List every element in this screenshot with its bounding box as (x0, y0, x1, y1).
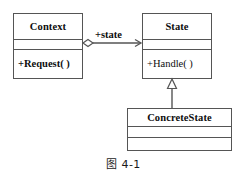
class-attributes-compartment-concretestate (128, 126, 231, 137)
class-name-compartment: State (143, 14, 211, 39)
class-box-concretestate[interactable]: ConcreteState (127, 108, 232, 151)
figure-caption: 图 4-1 (0, 155, 247, 171)
class-attributes-compartment-state (143, 39, 211, 49)
uml-class-diagram: Context +Request( ) State +Handle( ) Con… (0, 0, 247, 176)
class-title-context: Context (30, 21, 66, 32)
class-operations-compartment-concretestate (128, 137, 231, 149)
class-title-concretestate: ConcreteState (147, 112, 212, 123)
aggregation-context-state (83, 40, 141, 47)
class-name-compartment: ConcreteState (128, 109, 231, 126)
class-box-context[interactable]: Context +Request( ) (13, 13, 83, 79)
class-operation-state-handle: +Handle( ) (143, 49, 211, 77)
hollow-diamond-icon (83, 40, 93, 47)
class-attributes-compartment-context (14, 39, 82, 49)
class-box-state[interactable]: State +Handle( ) (142, 13, 212, 79)
generalization-concretestate-state (168, 79, 177, 108)
class-name-compartment: Context (14, 14, 82, 39)
class-operation-context-request: +Request( ) (14, 49, 82, 77)
class-title-state: State (165, 21, 188, 32)
hollow-triangle-icon (168, 79, 177, 89)
association-label-state: +state (95, 29, 122, 40)
open-arrow-icon (135, 40, 141, 47)
